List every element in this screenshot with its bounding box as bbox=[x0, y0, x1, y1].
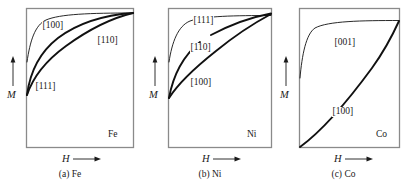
plot-frame-ni bbox=[169, 9, 272, 148]
panel-fe: M H [100] [110] [111] Fe (a) Fe bbox=[0, 0, 140, 186]
x-axis-arrow-ni bbox=[213, 157, 241, 162]
x-axis-label-ni: H bbox=[202, 154, 210, 165]
curve-label-ni-110: [110] bbox=[190, 43, 211, 53]
x-axis-label-fe: H bbox=[62, 154, 70, 165]
panel-ni: M H [111] [110] [100] Ni (b) Ni bbox=[140, 0, 280, 186]
x-axis-label-co: H bbox=[334, 154, 342, 165]
curve-label-fe-100: [100] bbox=[42, 21, 64, 31]
magnetization-curves-figure: M H [100] [110] [111] Fe (a) Fe bbox=[0, 0, 415, 186]
curve-label-co-100: [100] bbox=[332, 107, 354, 117]
y-axis-label-co: M bbox=[280, 90, 289, 101]
caption-co: (c) Co bbox=[272, 170, 415, 180]
plot-area-ni bbox=[140, 0, 280, 186]
y-axis-arrow-ni bbox=[153, 56, 158, 86]
curve-label-co-001: [001] bbox=[334, 38, 356, 48]
x-axis-arrow-co bbox=[345, 157, 373, 162]
curve-label-ni-100: [100] bbox=[190, 78, 212, 88]
caption-fe: (a) Fe bbox=[0, 170, 140, 180]
y-axis-label-fe: M bbox=[7, 90, 16, 101]
y-axis-arrow-fe bbox=[11, 56, 16, 86]
x-axis-arrow-fe bbox=[73, 157, 101, 162]
caption-ni: (b) Ni bbox=[140, 170, 280, 180]
plot-frame-co bbox=[300, 9, 400, 148]
element-label-fe: Fe bbox=[108, 130, 118, 140]
element-label-co: Co bbox=[376, 130, 387, 140]
plot-area-fe bbox=[0, 0, 140, 186]
curve-label-ni-111: [111] bbox=[193, 16, 214, 26]
panel-co: M H [001] [100] Co (c) Co bbox=[272, 0, 415, 186]
curve-label-fe-111: [111] bbox=[35, 82, 56, 92]
curve-label-fe-110: [110] bbox=[97, 36, 118, 46]
element-label-ni: Ni bbox=[247, 130, 257, 140]
y-axis-label-ni: M bbox=[149, 90, 158, 101]
plot-area-co bbox=[272, 0, 415, 186]
y-axis-arrow-co bbox=[284, 56, 289, 86]
